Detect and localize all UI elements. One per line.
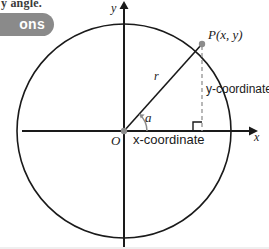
y-coordinate-label: y-coordinate: [206, 83, 269, 95]
y-axis-label: y: [111, 2, 116, 14]
x-coordinate-label: x-coordinate: [133, 133, 205, 146]
x-axis-label: x: [254, 131, 259, 143]
origin-label: O: [111, 134, 120, 147]
right-angle-marker: [193, 122, 202, 131]
page-canvas: y angle. ons y x O P(x, y) r a x-coordi: [0, 0, 269, 249]
radius-segment: [124, 44, 202, 131]
radius-label: r: [154, 70, 159, 82]
point-p-dot: [199, 41, 205, 47]
origin-dot: [121, 128, 127, 134]
y-axis-arrowhead: [120, 1, 129, 9]
point-p-label: P(x, y): [208, 28, 243, 41]
angle-label: a: [145, 111, 152, 124]
